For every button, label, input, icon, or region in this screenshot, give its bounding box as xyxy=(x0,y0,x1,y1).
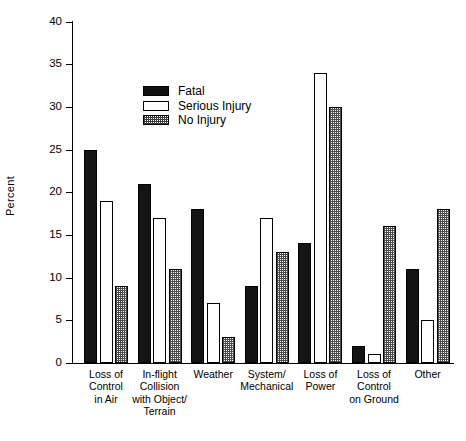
bar-fatal-group-2 xyxy=(138,184,151,363)
bar-serious-injury-group-3 xyxy=(207,303,220,363)
bar-serious-injury-group-2 xyxy=(153,218,166,363)
bar-chart: Percent 0510152025303540 Loss of Control… xyxy=(0,0,466,441)
bar-fatal-group-6 xyxy=(352,346,365,363)
bar-no-injury-group-2 xyxy=(169,269,182,363)
bar-fatal-group-5 xyxy=(298,243,311,363)
legend-label-no-injury: No Injury xyxy=(178,114,226,126)
bar-no-injury-group-1 xyxy=(115,286,128,363)
legend-item-no-injury: No Injury xyxy=(143,113,251,127)
legend-item-fatal: Fatal xyxy=(143,84,251,98)
legend-item-serious-injury: Serious Injury xyxy=(143,99,251,113)
figure-caption xyxy=(28,433,448,441)
bar-serious-injury-group-6 xyxy=(368,354,381,363)
bar-fatal-group-4 xyxy=(245,286,258,363)
legend-label-fatal: Fatal xyxy=(178,85,205,97)
bar-no-injury-group-7 xyxy=(437,209,450,363)
legend-swatch-no-injury xyxy=(143,115,169,125)
legend-swatch-fatal xyxy=(143,86,169,96)
bar-no-injury-group-3 xyxy=(222,337,235,363)
chart-legend: Fatal Serious Injury No Injury xyxy=(143,84,251,128)
bar-fatal-group-3 xyxy=(191,209,204,363)
bar-serious-injury-group-4 xyxy=(260,218,273,363)
bar-no-injury-group-5 xyxy=(329,107,342,363)
x-label-group-7: Other xyxy=(388,368,466,380)
bar-fatal-group-1 xyxy=(84,150,97,363)
bar-serious-injury-group-7 xyxy=(421,320,434,363)
bar-no-injury-group-6 xyxy=(383,226,396,363)
bar-fatal-group-7 xyxy=(406,269,419,363)
legend-label-serious-injury: Serious Injury xyxy=(178,100,251,112)
bar-no-injury-group-4 xyxy=(276,252,289,363)
bar-serious-injury-group-5 xyxy=(314,73,327,363)
legend-swatch-serious-injury xyxy=(143,101,169,111)
bar-serious-injury-group-1 xyxy=(100,201,113,363)
